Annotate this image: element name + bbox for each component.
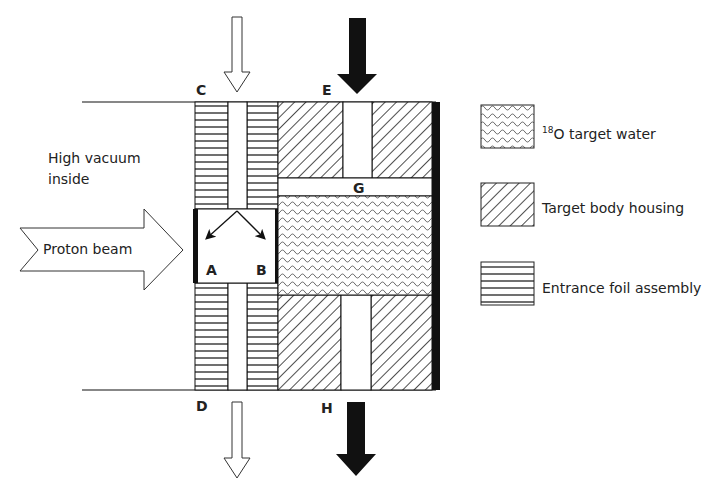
label-E: E	[322, 82, 332, 98]
legend-superscript: 18	[542, 125, 553, 135]
vacuum-label-line1: High vacuum	[48, 150, 141, 166]
arrow-out-water-icon	[336, 402, 376, 476]
label-B: B	[256, 262, 267, 278]
legend-item-foil: Entrance foil assembly	[542, 280, 701, 296]
label-G: G	[353, 180, 365, 196]
label-D: D	[196, 398, 208, 414]
label-H: H	[321, 400, 333, 416]
legend-swatch-housing	[481, 183, 534, 226]
legend-label-water: O target water	[553, 126, 655, 142]
legend-swatch-foil	[481, 262, 534, 305]
entrance-foil-assembly	[193, 102, 280, 390]
label-C: C	[196, 82, 206, 98]
vacuum-label: High vacuum inside	[48, 150, 141, 187]
proton-beam-label: Proton beam	[43, 241, 132, 257]
vacuum-label-line2: inside	[48, 171, 141, 187]
legend-item-housing: Target body housing	[542, 200, 684, 216]
target-water	[278, 196, 432, 295]
label-A: A	[206, 262, 217, 278]
legend-swatch-water	[481, 105, 534, 148]
arrow-in-helium-icon	[224, 17, 250, 92]
back-plate	[432, 102, 440, 390]
arrow-in-water-icon	[337, 18, 377, 94]
arrow-out-helium-icon	[224, 402, 250, 478]
legend-item-water: 18O target water	[542, 125, 656, 142]
